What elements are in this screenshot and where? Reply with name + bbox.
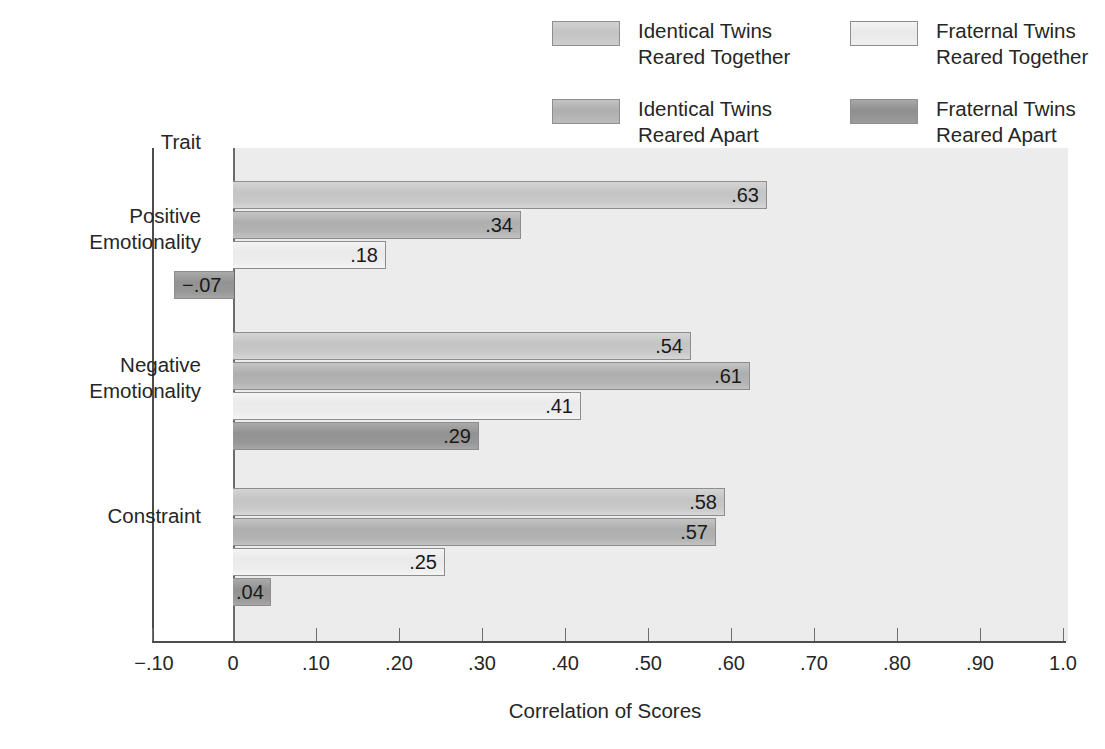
group-label-constraint: Constraint (108, 503, 201, 529)
x-axis-line (152, 641, 1066, 643)
x-tick-mark (731, 628, 732, 641)
x-tick-mark (565, 628, 566, 641)
bar-negative-emotionality-fraternal-together: .41 (233, 392, 581, 420)
bar-chart: Trait Positive Emotionality Negative Emo… (0, 0, 1105, 749)
x-tick-label: −.10 (134, 652, 173, 675)
bar-value-label: .54 (655, 333, 683, 361)
bar-negative-emotionality-fraternal-apart: .29 (233, 422, 479, 450)
x-tick-mark (152, 628, 153, 641)
x-tick-label: .20 (385, 652, 413, 675)
bar-constraint-identical-together: .58 (233, 488, 725, 516)
group-label-negative-emotionality: Negative Emotionality (89, 352, 201, 404)
bar-value-label: .57 (680, 519, 708, 547)
x-tick-mark (897, 628, 898, 641)
x-tick-mark (399, 628, 400, 641)
bar-negative-emotionality-identical-together: .54 (233, 332, 691, 360)
x-tick-mark (648, 628, 649, 641)
bar-value-label: .34 (485, 212, 513, 240)
x-tick-mark-zero (233, 148, 234, 641)
bar-value-label: .25 (409, 549, 437, 577)
bar-value-label: .04 (236, 579, 264, 607)
x-tick-label: .60 (717, 652, 745, 675)
y-axis-title: Trait (161, 130, 201, 154)
group-label-positive-emotionality: Positive Emotionality (89, 203, 201, 255)
x-tick-label: .50 (634, 652, 662, 675)
x-tick-label: .80 (883, 652, 911, 675)
bar-positive-emotionality-identical-apart: .34 (233, 211, 521, 239)
bar-value-label: .63 (731, 182, 759, 210)
bar-value-label: −.07 (182, 272, 221, 300)
bar-value-label: .58 (689, 489, 717, 517)
x-tick-mark (1063, 628, 1064, 641)
bar-positive-emotionality-identical-together: .63 (233, 181, 767, 209)
bar-value-label: .61 (714, 363, 742, 391)
x-tick-label: .90 (966, 652, 994, 675)
bar-negative-emotionality-identical-apart: .61 (233, 362, 750, 390)
x-tick-label: .70 (800, 652, 828, 675)
x-tick-label: 1.0 (1049, 652, 1077, 675)
x-tick-label: .10 (302, 652, 330, 675)
bar-constraint-fraternal-apart: .04 (233, 578, 271, 606)
x-axis-title: Correlation of Scores (0, 699, 1105, 723)
bar-value-label: .18 (350, 242, 378, 270)
bar-value-label: .29 (443, 423, 471, 451)
x-tick-mark (482, 628, 483, 641)
bar-constraint-fraternal-together: .25 (233, 548, 445, 576)
x-tick-mark (316, 628, 317, 641)
bar-constraint-identical-apart: .57 (233, 518, 716, 546)
x-tick-label: 0 (227, 652, 238, 675)
x-tick-mark (814, 628, 815, 641)
x-tick-label: .40 (551, 652, 579, 675)
bar-positive-emotionality-fraternal-apart: −.07 (174, 271, 234, 299)
x-axis-title-text: Correlation of Scores (404, 699, 702, 722)
bar-positive-emotionality-fraternal-together: .18 (233, 241, 386, 269)
x-tick-label: .30 (468, 652, 496, 675)
bar-value-label: .41 (545, 393, 573, 421)
x-tick-mark (980, 628, 981, 641)
